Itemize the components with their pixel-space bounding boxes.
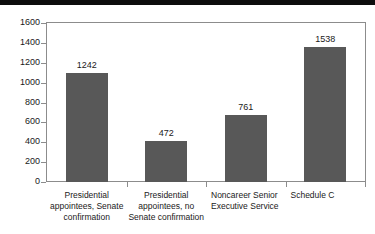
bar <box>225 115 267 182</box>
y-axis-tick-label: 1200 <box>0 57 40 66</box>
bar <box>66 73 108 182</box>
x-axis-category-label-line: confirmation <box>43 212 131 223</box>
bar-value-label: 1538 <box>295 35 355 44</box>
bar <box>304 47 346 182</box>
y-axis-tick-label: 0 <box>0 177 40 186</box>
y-axis-tick-label: 1600 <box>0 18 40 27</box>
x-axis-category-label-line: appointees, Senate <box>43 201 131 212</box>
x-axis-category-label-line: Presidential <box>123 190 211 201</box>
y-axis-tick-label: 200 <box>0 157 40 166</box>
x-axis-category-label-line: Executive Service <box>211 201 311 212</box>
y-axis-tick-label: 800 <box>0 97 40 106</box>
x-axis-tick-mark <box>365 182 366 187</box>
scan-edge-artifact <box>0 0 375 5</box>
bar-value-label: 472 <box>136 129 196 138</box>
x-axis-category-label-line: Senate confirmation <box>123 212 211 223</box>
y-axis-tick-mark <box>41 23 46 24</box>
y-axis: 16001400120010008006004002000 <box>0 22 40 182</box>
bar-value-label: 761 <box>216 103 276 112</box>
y-axis-tick-label: 1400 <box>0 37 40 46</box>
bars-layer: 12424727611538 <box>47 23 365 182</box>
y-axis-tick-mark <box>41 43 46 44</box>
y-axis-tick-label: 600 <box>0 117 40 126</box>
y-axis-tick-mark <box>41 182 46 183</box>
x-axis-category-label-line: Presidential <box>43 190 131 201</box>
bar-value-label: 1242 <box>57 61 117 70</box>
y-axis-tick-mark <box>41 162 46 163</box>
x-axis-category-label-line: Schedule C <box>291 190 375 201</box>
y-axis-tick-mark <box>41 142 46 143</box>
y-axis-tick-label: 400 <box>0 137 40 146</box>
x-axis-tick-mark <box>206 182 207 187</box>
y-axis-tick-mark <box>41 63 46 64</box>
x-axis-tick-mark <box>127 182 128 187</box>
y-axis-tick-mark <box>41 122 46 123</box>
x-axis-category-label: Presidentialappointees, Senateconfirmati… <box>43 190 131 223</box>
x-axis-tick-mark <box>286 182 287 187</box>
y-axis-tick-mark <box>41 103 46 104</box>
x-axis-category-label-line: appointees, no <box>123 201 211 212</box>
x-axis-category-label: Schedule C <box>291 190 375 201</box>
y-axis-tick-label: 1000 <box>0 77 40 86</box>
y-axis-tick-mark <box>41 83 46 84</box>
x-axis-category-label: Presidentialappointees, noSenate confirm… <box>123 190 211 223</box>
bar-chart-figure: 16001400120010008006004002000 1242472761… <box>0 0 375 234</box>
bar <box>145 141 187 183</box>
